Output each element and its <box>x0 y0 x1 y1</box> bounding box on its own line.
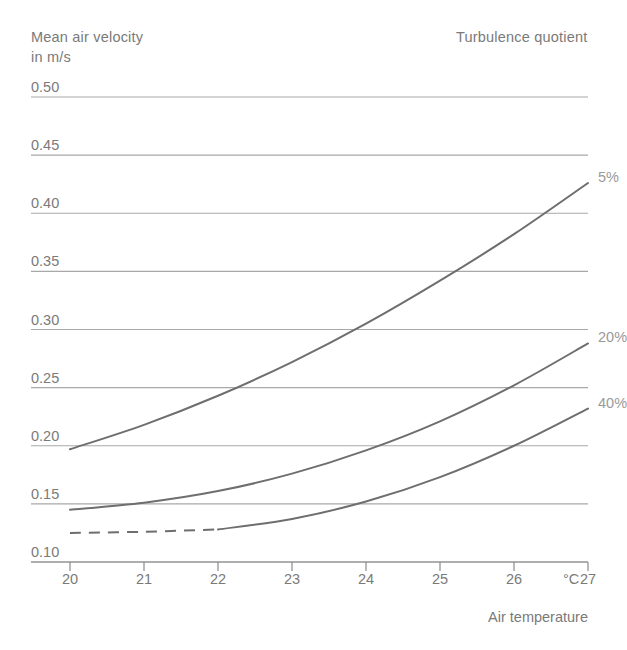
x-axis-unit-label: °C <box>563 571 579 587</box>
x-tick-label: 21 <box>136 571 152 587</box>
series-label-40: 40% <box>598 395 627 411</box>
data-curves-group <box>70 183 588 533</box>
curve-5 <box>70 183 588 449</box>
x-tick-label: 20 <box>62 571 78 587</box>
y-tick-label: 0.30 <box>31 312 59 328</box>
x-tick-label: 24 <box>358 571 374 587</box>
x-tick-label: 26 <box>506 571 522 587</box>
curve-40 <box>218 409 588 530</box>
x-axis-title: Air temperature <box>488 609 588 625</box>
x-tick-marks-group <box>70 562 588 571</box>
series-label-5: 5% <box>598 169 619 185</box>
y-tick-label: 0.25 <box>31 370 59 386</box>
y-tick-label: 0.10 <box>31 544 59 560</box>
y-tick-label: 0.15 <box>31 486 59 502</box>
y-tick-label: 0.45 <box>31 137 59 153</box>
gridlines-group <box>31 97 588 562</box>
y-tick-label: 0.20 <box>31 428 59 444</box>
y-tick-label: 0.35 <box>31 253 59 269</box>
y-tick-label: 0.50 <box>31 79 59 95</box>
x-tick-label: 23 <box>284 571 300 587</box>
x-tick-label: 25 <box>432 571 448 587</box>
y-tick-label: 0.40 <box>31 195 59 211</box>
series-label-20: 20% <box>598 329 627 345</box>
curve-20 <box>70 343 588 509</box>
x-tick-label: 22 <box>210 571 226 587</box>
curve-40-dashed-segment <box>70 529 218 532</box>
x-tick-label: 27 <box>580 571 596 587</box>
